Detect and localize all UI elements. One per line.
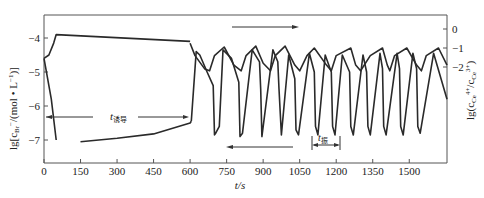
y-left-ticks: −4−5−6−7 [28,32,48,146]
series-2-br-conc [191,50,447,137]
x-tick-label: 300 [109,165,126,177]
arrowhead-right-icon [292,25,299,29]
x-ticks: 01503004506007509001050120013501500 [41,159,421,177]
arrowhead-right-icon [334,143,340,147]
induction-label: t诱导 [110,110,127,124]
arrowhead-left-icon [226,145,233,149]
y-right-ticks: 0−1−2 [443,23,464,73]
arrowhead-left-icon [312,143,318,147]
y-right-tick-label: 0 [452,23,458,35]
x-axis-title: t/s [235,179,245,191]
x-tick-label: 900 [255,165,272,177]
y-left-tick-label: −4 [28,32,40,44]
y-right-tick-label: −2 [452,61,464,73]
x-tick-label: 150 [72,165,89,177]
x-tick-label: 1050 [289,165,312,177]
y-right-axis-title: lg(cCe4+/cCe3+) [464,60,478,120]
x-tick-label: 600 [182,165,199,177]
y-left-axis-title: lg[cBr−/(mol • L−1)] [7,67,21,150]
arrowhead-left-icon [46,115,52,119]
x-tick-label: 0 [41,165,47,177]
y-left-tick-label: −6 [28,100,40,112]
series-4-ce-ratio [190,43,447,71]
y-right-tick-label: −1 [452,42,464,54]
period-label: t振 [318,132,328,145]
x-tick-label: 750 [218,165,235,177]
y-left-tick-label: −5 [28,66,40,78]
chart: 01503004506007509001050120013501500 −4−5… [0,0,484,198]
curves [44,35,447,142]
x-tick-label: 450 [145,165,162,177]
series-1-br-conc [81,121,192,141]
arrowhead-right-icon [183,115,189,119]
series-0-br-conc [44,58,56,140]
y-left-tick-label: −7 [28,134,40,146]
series-3-br-conc [44,35,190,59]
x-tick-label: 1350 [362,165,385,177]
x-tick-label: 1200 [325,165,348,177]
x-tick-label: 1500 [398,165,421,177]
